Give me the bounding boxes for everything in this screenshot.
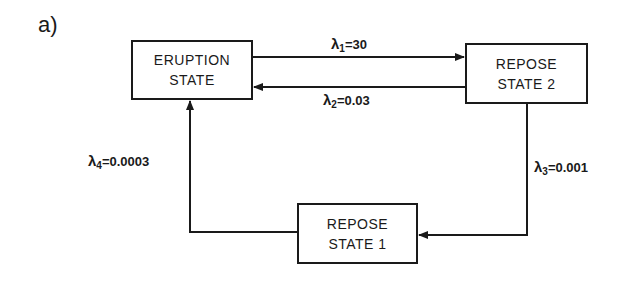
repose-state-2-line1: REPOSE <box>496 54 557 74</box>
eruption-state-box: ERUPTION STATE <box>131 40 253 100</box>
arrow-lambda4 <box>190 101 297 232</box>
eruption-state-line1: ERUPTION <box>154 50 230 70</box>
repose-state-2-box: REPOSE STATE 2 <box>465 43 588 104</box>
repose-state-2-line2: STATE 2 <box>497 74 555 94</box>
lambda4-label: λ4=0.0003 <box>88 152 149 171</box>
eruption-state-line2: STATE <box>169 70 215 90</box>
repose-state-1-line2: STATE 1 <box>328 234 386 254</box>
lambda3-label: λ3=0.001 <box>534 158 588 177</box>
lambda1-label: λ1=30 <box>331 35 367 54</box>
lambda2-label: λ2=0.03 <box>323 91 370 110</box>
repose-state-1-line1: REPOSE <box>327 214 388 234</box>
arrow-lambda3 <box>419 103 527 235</box>
repose-state-1-box: REPOSE STATE 1 <box>297 203 418 264</box>
